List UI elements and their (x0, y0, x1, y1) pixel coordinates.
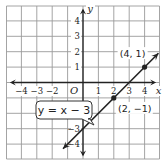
x-tick-label: 4 (142, 86, 147, 96)
y-tick-label: 2 (75, 47, 80, 57)
data-point (142, 65, 147, 70)
x-axis-label: x (156, 85, 162, 96)
y-tick-label: −4 (67, 139, 80, 149)
x-tick-label: 3 (126, 86, 131, 96)
x-tick-label: −4 (15, 86, 28, 96)
x-tick-label: −3 (31, 86, 44, 96)
equation-callout: y = x − 3 (36, 101, 94, 125)
y-tick-label: 1 (75, 62, 80, 72)
x-tick-label: −2 (46, 86, 59, 96)
x-tick-label: 1 (96, 86, 101, 96)
y-axis-label: y (86, 3, 93, 14)
coordinate-plane: −4−3−212344321−3−4Oxy (4, 1)(2, −1) y = … (0, 0, 166, 166)
equation-label: y = x − 3 (38, 104, 90, 117)
y-tick-label: 3 (75, 31, 80, 41)
data-point (111, 95, 116, 100)
y-tick-label: −3 (67, 124, 80, 134)
axes (10, 9, 156, 157)
point-label-2-neg1: (2, −1) (118, 103, 152, 114)
origin-label: O (70, 85, 78, 96)
y-tick-label: 4 (75, 16, 80, 26)
point-label-4-1: (4, 1) (120, 48, 146, 59)
tick-labels: −4−3−212344321−3−4Oxy (15, 2, 163, 149)
x-tick-label: 2 (111, 86, 116, 96)
